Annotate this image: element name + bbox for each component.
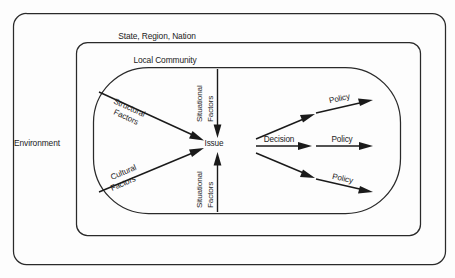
decision-branch-lower — [256, 153, 315, 178]
decision-arrow: Decision — [256, 135, 312, 150]
environment-boundary — [14, 14, 446, 265]
situational-factors-top-line2: Factors — [206, 96, 215, 122]
environment-label: Environment — [14, 138, 61, 148]
local-community-boundary — [94, 68, 401, 214]
state-region-nation-label: State, Region, Nation — [118, 31, 196, 41]
issue-label: Issue — [204, 139, 224, 148]
cultural-factors-arrow: Cultural Factors — [99, 148, 204, 193]
policy-middle-arrow: Policy — [316, 135, 373, 150]
situational-factors-top-line1: Situational — [195, 85, 204, 122]
situational-factors-top-arrow: Situational Factors — [195, 69, 221, 138]
diagram-root: Environment State, Region, Nation Local … — [0, 0, 455, 278]
policy-lower-arrow: Policy — [316, 172, 373, 194]
policy-upper-label: Policy — [328, 92, 352, 106]
diagram-canvas: Environment State, Region, Nation Local … — [0, 0, 455, 278]
local-community-label: Local Community — [133, 55, 197, 65]
situational-factors-bottom-arrow: Situational Factors — [195, 152, 221, 212]
situational-factors-bottom-line1: Situational — [195, 171, 204, 208]
policy-upper-arrow: Policy — [316, 92, 373, 113]
structural-factors-arrow: Structural Factors — [99, 92, 204, 141]
decision-label: Decision — [264, 135, 295, 144]
policy-middle-label: Policy — [331, 135, 353, 144]
situational-factors-bottom-line2: Factors — [206, 182, 215, 208]
